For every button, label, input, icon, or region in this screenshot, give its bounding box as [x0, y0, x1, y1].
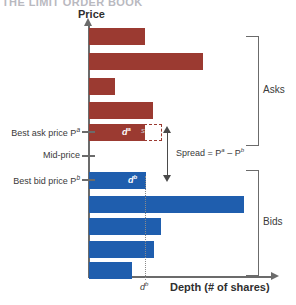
- best-bid-price-label: Best bid price Pb: [2, 174, 80, 186]
- ask-bar-2: [89, 102, 153, 119]
- x-axis-label: Depth (# of shares): [170, 281, 270, 293]
- tick-best-bid: [82, 179, 95, 181]
- x-axis-arrow-icon: [271, 272, 279, 280]
- spread-arrow-down-icon: [163, 175, 171, 182]
- x-tick-sup: b: [145, 281, 148, 287]
- spread-arrow-line: [167, 131, 168, 176]
- bid-bar-2: [89, 196, 244, 213]
- bids-group-label: Bids: [263, 216, 282, 227]
- best-ask-price-label: Best ask price Pa: [2, 126, 80, 138]
- depth-ask-sup: a: [128, 126, 131, 132]
- bids-bracket: [246, 170, 259, 276]
- best-bid-sup: b: [76, 174, 80, 181]
- order-book-diagram: THE LIMIT ORDER BOOK Price Depth (# of s…: [0, 0, 296, 305]
- spread-minus: – P: [225, 148, 241, 158]
- ask-bar-3: [89, 78, 115, 95]
- y-axis-label: Price: [78, 8, 105, 20]
- x-axis-tick-label: db: [140, 281, 148, 292]
- best-bid-text: Best bid price P: [13, 176, 76, 186]
- spread-sup-b: b: [241, 147, 244, 153]
- tick-mid-price: [82, 155, 95, 157]
- depth-ask-label: da: [122, 126, 131, 137]
- bid-bar-1-best: [89, 172, 146, 189]
- best-ask-text: Best ask price P: [11, 128, 76, 138]
- dashed-highlight-box: s: [134, 124, 162, 141]
- ask-bar-4: [89, 53, 203, 70]
- asks-group-label: Asks: [263, 84, 285, 95]
- mid-price-label: Mid-price: [2, 150, 80, 160]
- bid-bar-3: [89, 218, 161, 235]
- spread-label: Spread = Pa – Pb: [176, 147, 244, 158]
- cutoff-heading: THE LIMIT ORDER BOOK: [2, 0, 202, 6]
- spread-text: Spread = P: [176, 148, 221, 158]
- bid-bar-5: [89, 262, 132, 279]
- depth-guideline: [145, 176, 146, 280]
- best-ask-sup: a: [76, 126, 80, 133]
- tick-best-ask: [82, 131, 95, 133]
- asks-bracket: [246, 36, 259, 146]
- depth-bid-label: db: [128, 174, 137, 185]
- depth-bid-sup: b: [134, 174, 138, 180]
- dashed-box-inner-text: s: [141, 126, 145, 135]
- ask-bar-5: [89, 28, 145, 45]
